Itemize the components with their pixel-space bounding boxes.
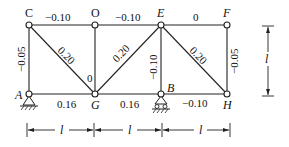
dim-label-h2: l	[128, 123, 132, 137]
force-label-GE: 0.20	[110, 42, 132, 65]
force-label-GB: 0.16	[120, 98, 140, 110]
force-label-CA: −0.05	[15, 46, 27, 72]
force-label-OE: −0.10	[115, 11, 141, 23]
node-label-A: A	[14, 88, 23, 102]
node-E	[158, 22, 164, 28]
dim-label-h1: l	[60, 123, 64, 137]
node-label-H: H	[222, 98, 233, 112]
node-F	[224, 22, 230, 28]
truss-diagram: C O E F A G B H −0.10 −0.10 0 0.16 0.16 …	[0, 0, 289, 147]
node-label-F: F	[222, 6, 231, 20]
force-label-BH: −0.10	[182, 97, 208, 109]
node-C	[26, 22, 32, 28]
force-label-CG: 0.20	[56, 44, 78, 67]
node-label-E: E	[156, 6, 165, 20]
support-B-roller	[152, 96, 170, 113]
node-H	[224, 91, 230, 97]
node-B	[158, 91, 164, 97]
node-label-O: O	[91, 6, 100, 20]
node-label-B: B	[167, 81, 175, 95]
force-label-CO: −0.10	[45, 11, 71, 23]
node-label-G: G	[91, 98, 100, 112]
dim-label-v: l	[265, 52, 269, 66]
force-label-EB: −0.10	[147, 54, 159, 80]
node-G	[92, 91, 98, 97]
force-label-AG: 0.16	[57, 98, 77, 110]
dim-label-h3: l	[199, 123, 203, 137]
node-A	[26, 91, 32, 97]
force-label-EF: 0	[193, 11, 199, 23]
force-label-EH: 0.20	[188, 44, 210, 67]
force-label-FH: −0.05	[228, 48, 240, 74]
node-O	[92, 22, 98, 28]
force-label-OG: 0	[87, 72, 93, 84]
member-CG	[29, 25, 95, 94]
node-label-C: C	[25, 6, 33, 20]
support-A-pin	[20, 96, 38, 110]
